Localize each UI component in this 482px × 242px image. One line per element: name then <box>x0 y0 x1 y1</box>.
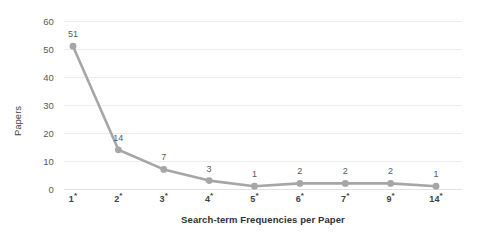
y-tick-0: 0 <box>49 184 54 195</box>
x-tick-2*: 2* <box>114 194 122 204</box>
series-papers <box>64 21 462 189</box>
data-label-4*: 3 <box>207 164 212 174</box>
data-label-5*: 1 <box>252 169 257 179</box>
x-tick-7*: 7* <box>341 194 349 204</box>
data-label-1*: 51 <box>68 29 78 39</box>
y-tick-20: 20 <box>43 128 54 139</box>
data-point-3* <box>160 166 167 173</box>
data-point-2* <box>115 146 122 153</box>
data-label-14*: 1 <box>433 169 438 179</box>
y-tick-30: 30 <box>43 100 54 111</box>
x-tick-1*: 1* <box>69 194 77 204</box>
y-axis-tick-labels: 0 10 20 30 40 50 60 <box>0 0 58 242</box>
data-point-6* <box>296 180 303 187</box>
y-axis-title: Papers <box>12 106 23 136</box>
y-tick-40: 40 <box>43 72 54 83</box>
y-tick-60: 60 <box>43 16 54 27</box>
x-tick-5*: 5* <box>250 194 258 204</box>
x-tick-3*: 3* <box>160 194 168 204</box>
data-label-9*: 2 <box>388 166 393 176</box>
data-point-9* <box>387 180 394 187</box>
data-label-6*: 2 <box>297 166 302 176</box>
data-label-3*: 7 <box>161 152 166 162</box>
x-tick-9*: 9* <box>386 194 394 204</box>
series-markers <box>70 43 440 190</box>
x-tick-4*: 4* <box>205 194 213 204</box>
data-point-4* <box>206 177 213 184</box>
y-tick-50: 50 <box>43 44 54 55</box>
gridline-0 <box>64 189 462 190</box>
data-point-5* <box>251 183 258 190</box>
plot-area: 51147312221 <box>64 21 462 189</box>
y-tick-10: 10 <box>43 156 54 167</box>
data-point-7* <box>342 180 349 187</box>
data-label-7*: 2 <box>343 166 348 176</box>
chart-screenshot: 0 10 20 30 40 50 60 Papers 51147312221 1… <box>0 0 482 242</box>
data-point-14* <box>433 183 440 190</box>
data-label-2*: 14 <box>113 133 123 143</box>
series-line <box>73 46 436 186</box>
data-point-1* <box>70 43 77 50</box>
x-axis-title: Search-term Frequencies per Paper <box>64 214 462 225</box>
x-tick-14*: 14* <box>429 194 442 204</box>
x-tick-6*: 6* <box>296 194 304 204</box>
